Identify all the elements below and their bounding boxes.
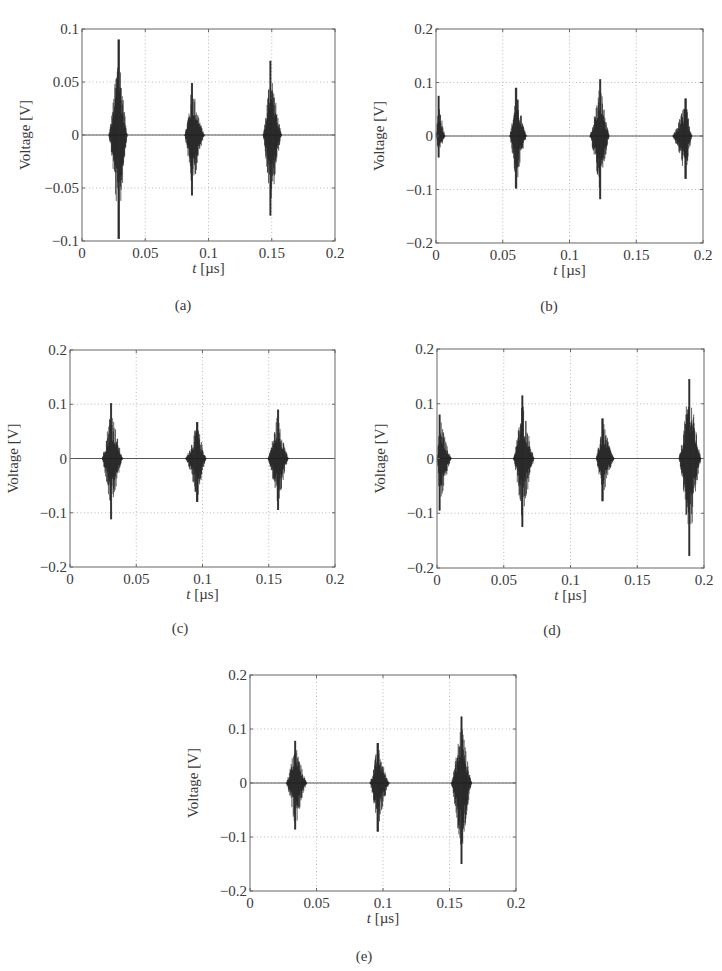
y-tick-label: 0.1 (414, 75, 433, 91)
y-tick-label: 0.2 (414, 21, 433, 37)
x-tick-label: 0.2 (326, 571, 345, 587)
y-tick-labels: −0.2−0.100.10.2 (220, 667, 247, 899)
x-tick-label: 0.2 (326, 245, 345, 261)
chart-panel-d: 00.050.10.150.2−0.2−0.100.10.2t [µs]Volt… (362, 337, 722, 616)
y-tick-label: 0.1 (48, 396, 67, 412)
x-tick-label: 0.1 (560, 247, 579, 263)
signal-burst (513, 396, 534, 527)
x-tick-label: 0 (78, 245, 86, 261)
x-tick-label: 0 (66, 571, 74, 587)
panel-caption-b: (b) (540, 298, 558, 315)
x-tick-labels: 00.050.10.150.2 (246, 895, 525, 911)
y-tick-label: −0.05 (44, 180, 79, 196)
x-tick-label: 0.05 (303, 895, 329, 911)
y-tick-label: 0.2 (228, 667, 247, 683)
y-tick-label: 0.2 (48, 342, 67, 358)
x-axis-label: t [µs] (553, 262, 585, 278)
y-tick-labels: −0.2−0.100.10.2 (406, 21, 433, 251)
y-tick-label: −0.1 (220, 829, 247, 845)
signal-trace (82, 40, 335, 239)
signal-burst (185, 422, 206, 502)
signal-trace (436, 79, 703, 199)
x-axis-label: t [µs] (554, 587, 586, 603)
y-tick-label: 0.05 (53, 74, 79, 90)
signal-burst (451, 717, 472, 864)
y-tick-label: −0.2 (220, 883, 247, 899)
x-tick-label: 0.1 (374, 895, 393, 911)
y-axis-label: Voltage [V] (5, 423, 21, 493)
y-tick-label: 0 (427, 451, 435, 467)
x-tick-labels: 00.050.10.150.2 (78, 245, 344, 261)
x-tick-label: 0.1 (199, 245, 218, 261)
x-tick-label: 0 (433, 572, 441, 588)
x-tick-label: 0.05 (123, 571, 149, 587)
x-tick-label: 0.2 (695, 572, 714, 588)
chart-panel-a: 00.050.10.150.2−0.1−0.0500.050.1t [µs]Vo… (7, 17, 365, 289)
signal-burst (437, 415, 451, 511)
y-tick-labels: −0.2−0.100.10.2 (407, 341, 434, 576)
y-tick-label: 0.1 (60, 21, 79, 37)
chart-panel-b: 00.050.10.150.2−0.2−0.100.10.2t [µs]Volt… (361, 17, 722, 291)
y-tick-label: 0.1 (228, 721, 247, 737)
x-tick-label: 0.15 (623, 247, 649, 263)
panel-caption-d: (d) (543, 622, 561, 639)
x-tick-label: 0 (432, 247, 440, 263)
x-tick-label: 0.15 (256, 571, 282, 587)
x-tick-labels: 00.050.10.150.2 (66, 571, 344, 587)
y-tick-label: −0.1 (52, 233, 79, 249)
signal-burst (370, 743, 390, 832)
x-tick-label: 0.2 (507, 895, 526, 911)
y-tick-label: 0 (60, 451, 68, 467)
x-tick-label: 0.15 (624, 572, 650, 588)
signal-burst (102, 403, 123, 519)
panel-caption-e: (e) (356, 948, 373, 965)
x-tick-label: 0.05 (490, 247, 516, 263)
x-tick-label: 0.1 (561, 572, 580, 588)
panel-caption-c: (c) (172, 620, 189, 637)
signal-burst (286, 741, 307, 830)
x-axis-label: t [µs] (186, 586, 218, 602)
y-tick-label: 0 (240, 775, 248, 791)
x-tick-label: 0.05 (132, 245, 158, 261)
chart-panel-e: 00.050.10.150.2−0.2−0.100.10.2t [µs]Volt… (175, 663, 546, 939)
signal-burst (109, 40, 128, 239)
y-tick-label: −0.2 (407, 560, 434, 576)
chart-panel-c: 00.050.10.150.2−0.2−0.100.10.2t [µs]Volt… (0, 338, 365, 615)
signal-burst (596, 419, 615, 502)
y-tick-label: −0.1 (407, 505, 434, 521)
x-axis-label: t [µs] (192, 260, 224, 276)
x-tick-label: 0.05 (491, 572, 517, 588)
signal-burst (672, 99, 692, 179)
y-tick-label: −0.1 (406, 182, 433, 198)
x-tick-label: 0.15 (436, 895, 462, 911)
x-tick-labels: 00.050.10.150.2 (432, 247, 712, 263)
y-tick-label: 0 (72, 127, 80, 143)
y-tick-label: −0.2 (406, 235, 433, 251)
signal-burst (679, 379, 701, 556)
y-tick-labels: −0.1−0.0500.050.1 (44, 21, 79, 249)
y-tick-label: 0 (426, 128, 434, 144)
signal-burst (184, 83, 204, 195)
x-tick-label: 0.2 (694, 247, 713, 263)
panel-caption-a: (a) (175, 297, 192, 314)
x-tick-label: 0.1 (193, 571, 212, 587)
x-axis-label: t [µs] (367, 910, 399, 926)
signal-burst (509, 88, 526, 189)
y-axis-label: Voltage [V] (17, 100, 33, 170)
y-tick-label: −0.2 (40, 559, 67, 575)
signal-burst (590, 79, 610, 199)
signal-burst (267, 410, 288, 510)
y-tick-label: 0.1 (415, 396, 434, 412)
signal-burst (263, 61, 282, 216)
y-axis-label: Voltage [V] (185, 748, 201, 818)
signal-burst (436, 96, 445, 158)
x-tick-labels: 00.050.10.150.2 (433, 572, 713, 588)
y-axis-label: Voltage [V] (372, 423, 388, 493)
y-tick-labels: −0.2−0.100.10.2 (40, 342, 67, 575)
x-tick-label: 0 (246, 895, 254, 911)
y-tick-label: 0.2 (415, 341, 434, 357)
y-tick-label: −0.1 (40, 505, 67, 521)
y-axis-label: Voltage [V] (371, 101, 387, 171)
x-tick-label: 0.15 (259, 245, 285, 261)
